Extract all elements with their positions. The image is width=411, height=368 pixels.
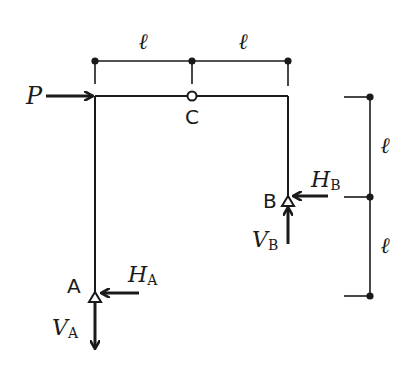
support-b-pin-icon [282,196,294,206]
reaction-vb-label: VB [252,227,278,253]
dimension-label-right-upper: ℓ [380,133,390,158]
dimension-label-top-right: ℓ [238,29,248,54]
right-dimension [344,94,373,299]
support-a-pin-icon [89,292,101,302]
support-a-label: A [67,274,81,298]
hinge-label: C [185,105,199,129]
dimension-label-top-left: ℓ [138,29,148,54]
hinge-c-icon [188,92,197,101]
top-dimension [92,58,291,86]
dimension-label-right-lower: ℓ [380,233,390,258]
three-hinged-frame-diagram: ℓ ℓ ℓ ℓ C P B HB VB A HA VA [0,0,411,368]
reaction-ha-label: HA [127,262,158,288]
reaction-hb-label: HB [310,167,340,193]
load-label: P [25,82,43,110]
reaction-va-label: VA [52,315,79,341]
support-b-label: B [263,189,277,213]
